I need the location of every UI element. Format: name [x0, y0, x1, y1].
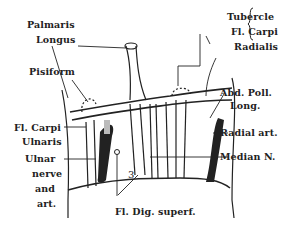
abd-poll-label-2: Long.	[230, 100, 260, 111]
tubercle-label-1: Tubercle	[227, 11, 274, 22]
palmaris-label-2: Longus	[36, 34, 75, 45]
ulnar-label-1: Ulnar	[25, 153, 55, 164]
tubercle-label-3: Radialis	[234, 41, 278, 52]
ulnar-border-line	[62, 90, 69, 218]
fcu-label-1: Fl. Carpi	[14, 122, 61, 133]
tubercle-label-2: Fl. Carpi	[231, 26, 278, 37]
ulnar-label-4: art.	[37, 198, 56, 209]
ulnar-label-2: nerve	[32, 168, 62, 179]
ulnar-label-3: and	[35, 183, 55, 194]
abd-poll-label-1: Abd. Poll.	[220, 87, 272, 98]
wrist-anatomy-figure: 3 Palmaris Longus Pisiform Tubercle Fl. …	[0, 0, 287, 233]
palmaris-label-1: Palmaris	[27, 19, 75, 30]
pisiform-label: Pisiform	[29, 66, 75, 77]
fl-dig-superf-label: Fl. Dig. superf.	[115, 206, 196, 217]
number-3-label: 3	[128, 169, 134, 180]
radial-border-line	[232, 78, 235, 218]
fcu-label-2: Ulnaris	[22, 136, 62, 147]
median-n-label: Median N.	[220, 151, 275, 162]
radial-art-label: Radial art.	[220, 127, 278, 138]
